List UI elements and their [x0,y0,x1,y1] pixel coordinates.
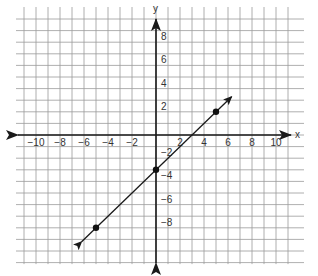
x-tick-label: −4 [102,137,114,148]
y-tick-label: 4 [161,78,167,89]
coordinate-plane: x y −10−8−6−4−2246810 8642−2−4−6−8 [0,0,318,276]
data-point [93,225,99,231]
x-tick-label: −10 [28,137,45,148]
x-tick-label: 10 [270,137,282,148]
y-tick-label: 8 [161,31,167,42]
y-tick-label: −2 [161,147,173,158]
x-axis-label: x [295,129,300,140]
x-tick-label: 6 [225,137,231,148]
y-axis-label: y [153,3,158,14]
x-tick-label: −8 [54,137,66,148]
y-tick-label: 2 [161,101,167,112]
data-point [213,109,219,115]
x-tick-label: −2 [126,137,138,148]
x-tick-label: −6 [78,137,90,148]
data-point [153,167,159,173]
y-tick-label: −4 [161,170,173,181]
y-tick-label: −6 [161,194,173,205]
x-tick-label: 4 [201,137,207,148]
x-tick-label: 8 [249,137,255,148]
y-tick-label: −8 [161,217,173,228]
y-tick-label: 6 [161,54,167,65]
y-tick-labels: 8642−2−4−6−8 [161,31,173,228]
